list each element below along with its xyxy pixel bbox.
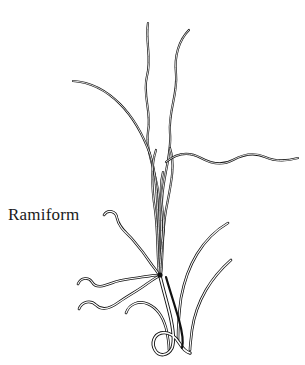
left-curl-branch-highlight — [126, 302, 169, 350]
figure-page: Ramiform — [0, 0, 305, 365]
filament-group-bundle — [152, 148, 172, 274]
filament-right-horizontal — [166, 154, 298, 164]
branch-left-curl — [126, 302, 169, 350]
convergence-node-icon — [157, 272, 162, 277]
branch-group-right — [178, 223, 231, 350]
ramiform-illustration — [0, 0, 305, 365]
right-branch-lower-short-highlight — [190, 260, 231, 350]
branch-group-left — [78, 211, 160, 309]
right-horizontal-wavy-filament-icon — [166, 154, 298, 164]
figure-label: Ramiform — [8, 205, 79, 225]
left-curl-branch-icon — [126, 302, 169, 350]
left-branch-upper-hooked-icon — [104, 211, 159, 275]
right-horizontal-wavy-filament-highlight — [166, 154, 298, 164]
upper-filament-right-tall-icon — [161, 30, 189, 273]
right-branch-upper-long-highlight — [178, 223, 228, 340]
right-branch-lower-short-icon — [190, 260, 231, 350]
filament-group-upper — [73, 23, 189, 273]
